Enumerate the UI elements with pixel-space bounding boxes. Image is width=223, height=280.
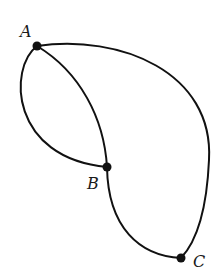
- vertex-b: [103, 163, 112, 172]
- edge-b-c: [107, 167, 181, 258]
- vertex-label-b: B: [87, 176, 99, 192]
- edge-a-b-right: [37, 46, 107, 167]
- vertex-label-c: C: [193, 254, 205, 270]
- vertex-c: [177, 254, 186, 263]
- edge-a-b-left: [21, 46, 107, 167]
- graph-diagram: [0, 0, 223, 280]
- vertex-a: [33, 42, 42, 51]
- vertex-label-a: A: [20, 24, 32, 40]
